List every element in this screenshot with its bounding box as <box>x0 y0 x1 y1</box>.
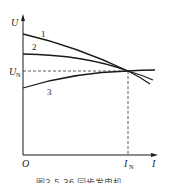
curve-2-label: 2 <box>32 42 37 52</box>
in-label-sub: N <box>129 163 134 170</box>
x-axis-arrow-icon <box>151 153 158 157</box>
curve-1-label: 1 <box>41 29 46 39</box>
curve-3-label: 3 <box>47 87 52 97</box>
curve-2 <box>23 54 153 80</box>
external-characteristic-chart: U I O U N I N 1 2 3 图3-5-36 同步发电机... <box>0 0 174 183</box>
y-axis-label: U <box>11 17 19 28</box>
x-axis-label: I <box>151 158 156 169</box>
figure-caption: 图3-5-36 同步发电机... <box>36 177 131 183</box>
un-label-sub: N <box>16 71 21 78</box>
y-axis-arrow-icon <box>21 14 25 21</box>
curve-1 <box>23 34 150 84</box>
in-label: I <box>123 158 128 169</box>
origin-label: O <box>22 158 29 169</box>
